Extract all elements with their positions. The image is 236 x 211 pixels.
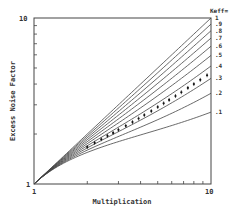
- keff-label: .7: [215, 34, 223, 41]
- y-tick-label-1: 1: [26, 181, 30, 189]
- data-point: [174, 95, 176, 97]
- data-point: [138, 117, 140, 119]
- x-tick-label-10: 10: [205, 188, 213, 196]
- keff-curve: [34, 66, 211, 184]
- data-point: [117, 129, 119, 131]
- data-point: [180, 91, 182, 93]
- data-point: [86, 146, 88, 148]
- keff-label: .6: [215, 42, 223, 49]
- data-point: [131, 121, 133, 123]
- data-point: [168, 99, 170, 101]
- data-point: [157, 106, 159, 108]
- legend-title: Keff=: [210, 7, 228, 14]
- data-point: [94, 142, 96, 144]
- data-point: [143, 114, 145, 116]
- keff-label: .5: [215, 51, 223, 58]
- keff-label: .1: [215, 108, 223, 115]
- data-point: [163, 102, 165, 104]
- y-axis-title: Excess Noise Factor: [9, 61, 17, 141]
- keff-curve: [34, 78, 211, 184]
- data-point: [125, 125, 127, 127]
- data-point: [112, 132, 114, 134]
- data-point: [187, 87, 189, 89]
- data-point: [106, 135, 108, 137]
- keff-label: .2: [215, 89, 223, 96]
- data-point: [150, 110, 152, 112]
- y-tick-label-10: 10: [19, 15, 27, 23]
- keff-label: .4: [215, 62, 223, 69]
- keff-curve: [34, 18, 211, 184]
- excess-noise-chart: 1.9.8.7.6.5.4.3.2.1 10 1 1 10 Multiplica…: [0, 0, 236, 211]
- keff-curve: [34, 93, 211, 184]
- keff-label: .3: [215, 74, 223, 81]
- measured-data-points: [86, 73, 208, 149]
- x-tick-label-1: 1: [32, 188, 36, 196]
- keff-label: .8: [215, 27, 223, 34]
- data-point: [100, 138, 102, 140]
- keff-curves: [34, 18, 211, 184]
- keff-curve: [34, 112, 211, 184]
- data-point: [206, 74, 208, 76]
- data-point: [193, 83, 195, 85]
- x-axis-title: Multiplication: [92, 198, 151, 206]
- data-point: [199, 79, 201, 81]
- keff-legend-labels: 1.9.8.7.6.5.4.3.2.1: [215, 14, 223, 115]
